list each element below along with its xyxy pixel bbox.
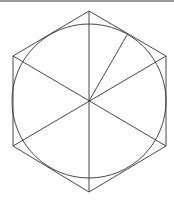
radius-to-tangent	[89, 35, 127, 101]
hexagon-diagram	[0, 0, 174, 200]
